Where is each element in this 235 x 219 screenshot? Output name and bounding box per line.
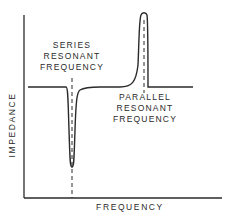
impedance-curve [28, 13, 193, 167]
x-axis-label: FREQUENCY [80, 202, 180, 213]
label-line: FREQUENCY [34, 62, 110, 73]
parallel-resonant-label: PARALLEL RESONANT FREQUENCY [102, 92, 188, 125]
label-line: PARALLEL [102, 92, 188, 103]
label-line: RESONANT [34, 51, 110, 62]
series-resonant-label: SERIES RESONANT FREQUENCY [34, 40, 110, 73]
y-axis-label: IMPEDANCE [7, 98, 18, 158]
label-line: SERIES [34, 40, 110, 51]
label-line: FREQUENCY [102, 114, 188, 125]
label-line: RESONANT [102, 103, 188, 114]
